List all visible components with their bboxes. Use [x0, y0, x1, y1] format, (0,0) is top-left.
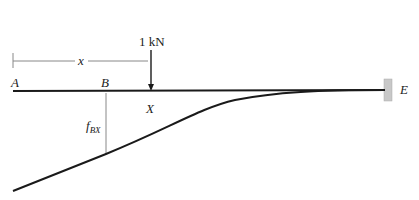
point-label-a: A: [10, 75, 19, 90]
point-label-b: B: [101, 75, 109, 90]
fixed-support: [384, 79, 392, 101]
influence-curve: [13, 90, 385, 191]
dimension-label-x: x: [77, 53, 84, 68]
load-label: 1 kN: [139, 34, 165, 49]
influence-diagram: x 1 kN A B X E fBX: [0, 0, 419, 200]
point-label-x: X: [145, 101, 155, 116]
ordinate-label-fbx: fBX: [86, 118, 101, 135]
point-label-e: E: [399, 82, 408, 97]
